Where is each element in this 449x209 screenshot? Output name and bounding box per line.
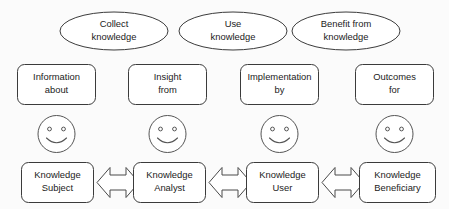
activity-benefit-line1: Benefit from xyxy=(321,18,372,29)
double-headed-arrow-analyst-user xyxy=(209,168,251,198)
activity-ellipse-collect[interactable]: Collect knowledge xyxy=(60,12,168,50)
relation-implementation-line2: by xyxy=(275,84,285,95)
relation-box-information[interactable]: Information about xyxy=(18,65,96,105)
actor-beneficiary-line2: Beneficiary xyxy=(374,182,421,193)
actor-box-knowledge-subject[interactable]: Knowledge Subject xyxy=(22,163,94,203)
smiley-face-icon-subject xyxy=(38,116,75,153)
actor-user-line2: User xyxy=(273,182,293,193)
relation-information-line2: about xyxy=(45,84,69,95)
actor-analyst-line1: Knowledge xyxy=(146,169,192,180)
relation-box-insight[interactable]: Insight from xyxy=(129,65,207,105)
activity-use-line2: knowledge xyxy=(211,31,256,42)
arrow-shape xyxy=(322,168,364,198)
smiley-face-icon-user xyxy=(261,116,298,153)
actor-subject-line1: Knowledge xyxy=(34,169,80,180)
face-circle xyxy=(38,116,75,153)
activity-collect-line2: knowledge xyxy=(92,31,137,42)
actor-subject-line2: Subject xyxy=(42,182,74,193)
face-left-eye xyxy=(159,127,163,131)
smiley-face-icon-beneficiary xyxy=(376,116,413,153)
face-circle xyxy=(376,116,413,153)
diagram-canvas: Collect knowledge Use knowledge Benefit … xyxy=(0,0,449,209)
face-right-eye xyxy=(173,127,177,131)
face-right-eye xyxy=(285,127,289,131)
double-headed-arrow-subject-analyst xyxy=(97,168,139,198)
relation-information-line1: Information xyxy=(33,71,80,82)
actor-user-line1: Knowledge xyxy=(259,169,305,180)
actor-box-knowledge-analyst[interactable]: Knowledge Analyst xyxy=(134,163,206,203)
smiley-face-icon-analyst xyxy=(149,116,186,153)
face-left-eye xyxy=(271,127,275,131)
relation-box-implementation[interactable]: Implementation by xyxy=(241,65,319,105)
relation-insight-line2: from xyxy=(158,84,177,95)
activity-ellipse-use[interactable]: Use knowledge xyxy=(179,12,287,50)
face-left-eye xyxy=(386,127,390,131)
actor-box-knowledge-beneficiary[interactable]: Knowledge Beneficiary xyxy=(360,163,436,203)
activity-use-line1: Use xyxy=(225,18,242,29)
actor-box-knowledge-user[interactable]: Knowledge User xyxy=(247,163,319,203)
relation-box-outcomes[interactable]: Outcomes for xyxy=(356,65,434,105)
arrow-shape xyxy=(209,168,251,198)
activity-collect-line1: Collect xyxy=(100,18,129,29)
face-circle xyxy=(261,116,298,153)
knowledge-flow-diagram: Collect knowledge Use knowledge Benefit … xyxy=(0,0,449,209)
actor-analyst-line2: Analyst xyxy=(154,182,185,193)
relation-implementation-line1: Implementation xyxy=(247,71,311,82)
activity-benefit-line2: knowledge xyxy=(324,31,369,42)
arrow-shape xyxy=(97,168,139,198)
face-left-eye xyxy=(48,127,52,131)
face-right-eye xyxy=(62,127,66,131)
relation-outcomes-line1: Outcomes xyxy=(373,71,416,82)
actor-beneficiary-line1: Knowledge xyxy=(374,169,420,180)
activity-ellipse-benefit[interactable]: Benefit from knowledge xyxy=(292,12,400,50)
relation-outcomes-line2: for xyxy=(389,84,400,95)
face-right-eye xyxy=(400,127,404,131)
face-circle xyxy=(149,116,186,153)
double-headed-arrow-user-beneficiary xyxy=(322,168,364,198)
relation-insight-line1: Insight xyxy=(154,71,182,82)
